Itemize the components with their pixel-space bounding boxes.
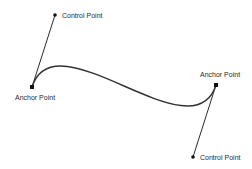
bezier-diagram: Control Point Anchor Point Anchor Point …: [0, 0, 252, 169]
handle-line-right: [193, 85, 216, 157]
anchor-point-2-label: Anchor Point: [200, 71, 240, 78]
control-point-1-dot: [53, 13, 57, 17]
control-point-1-label: Control Point: [62, 12, 103, 19]
control-point-2-label: Control Point: [200, 154, 241, 161]
anchor-point-2-square: [214, 83, 218, 87]
anchor-point-1-label: Anchor Point: [15, 94, 55, 101]
handle-line-left: [32, 15, 55, 87]
anchor-point-1-square: [30, 85, 34, 89]
control-point-2-dot: [191, 155, 195, 159]
bezier-curve: [32, 66, 216, 106]
